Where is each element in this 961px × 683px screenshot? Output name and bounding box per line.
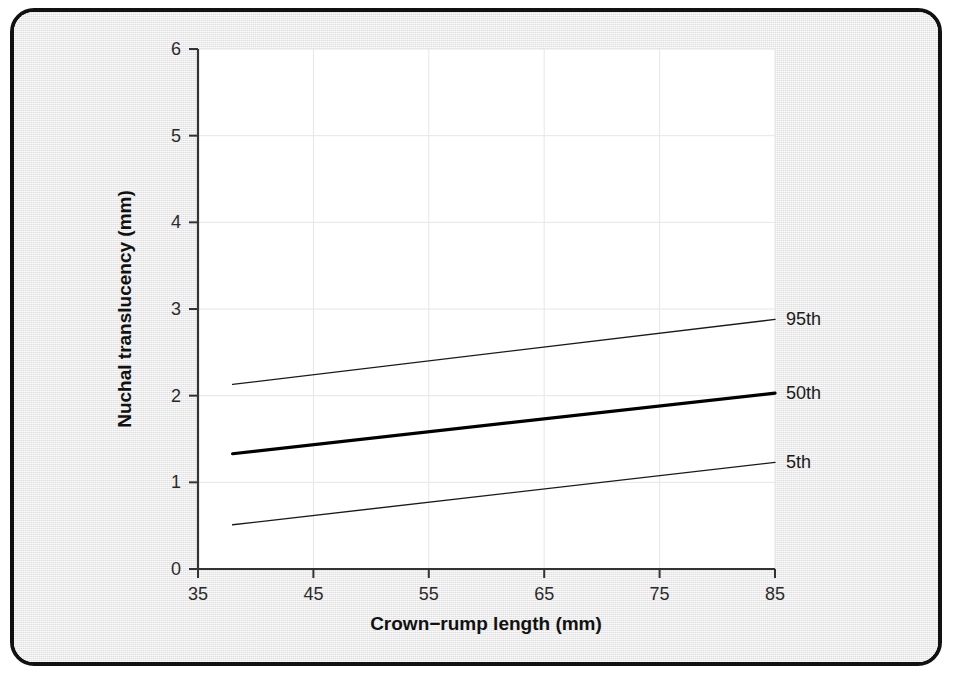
- y-axis-tick-label: 4: [171, 212, 181, 232]
- x-axis-tick-label: 35: [188, 584, 208, 604]
- y-axis-tick-label: 5: [171, 126, 181, 146]
- percentile-curve-labels: 95th50th5th: [786, 309, 821, 472]
- y-axis-tick-label: 6: [171, 39, 181, 59]
- y-axis-tick-labels: 0123456: [171, 39, 181, 579]
- x-axis-tick-label: 65: [534, 584, 554, 604]
- y-axis-tick-label: 0: [171, 559, 181, 579]
- x-axis-tick-label: 75: [650, 584, 670, 604]
- y-axis-tick-label: 3: [171, 299, 181, 319]
- y-axis-ticks: [189, 49, 198, 569]
- y-axis-title: Nuchal translucency (mm): [114, 190, 135, 428]
- nuchal-translucency-chart: 0123456 354555657585 95th50th5th Crown−r…: [0, 0, 951, 675]
- x-axis-tick-label: 55: [419, 584, 439, 604]
- x-axis-tick-label: 45: [303, 584, 323, 604]
- y-axis-tick-label: 2: [171, 386, 181, 406]
- percentile-label-50th: 50th: [786, 383, 821, 403]
- x-axis-tick-label: 85: [765, 584, 785, 604]
- y-axis-tick-label: 1: [171, 472, 181, 492]
- x-axis-ticks: [198, 569, 775, 578]
- x-axis-tick-labels: 354555657585: [188, 584, 785, 604]
- percentile-label-95th: 95th: [786, 309, 821, 329]
- percentile-label-5th: 5th: [786, 452, 811, 472]
- x-axis-title: Crown−rump length (mm): [370, 613, 602, 634]
